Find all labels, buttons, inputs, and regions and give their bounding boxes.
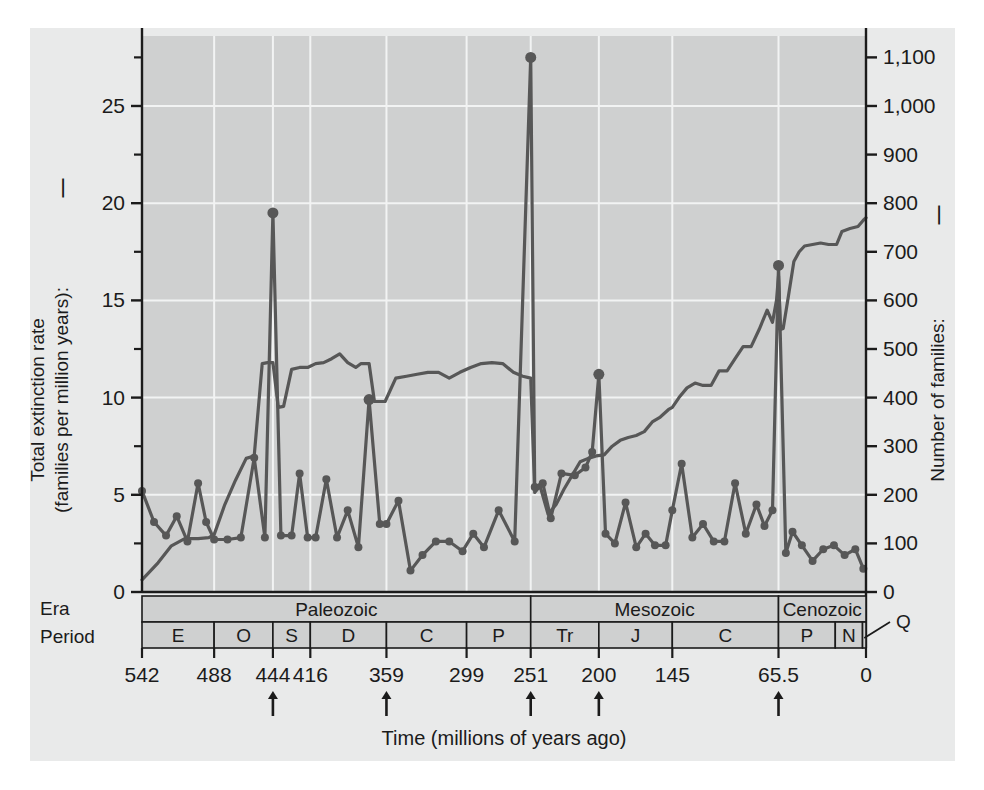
right-tick-label: 1,100 — [883, 45, 936, 68]
mass-extinction-arrow-head — [774, 691, 784, 699]
era-label: Mesozoic — [614, 599, 694, 620]
data-point — [782, 549, 790, 557]
data-point — [162, 532, 170, 540]
data-point — [480, 543, 488, 551]
data-point — [789, 528, 797, 536]
mass-extinction-arrows — [268, 691, 784, 716]
extinction-chart: 0510152025 01002003004005006007008009001… — [0, 0, 984, 790]
mass-extinction-arrow-head — [268, 691, 278, 699]
data-point — [557, 469, 565, 477]
period-label: S — [285, 625, 298, 646]
data-point — [237, 534, 245, 542]
right-axis-legend-dash: — — [927, 206, 948, 225]
period-label: Tr — [556, 625, 574, 646]
left-axis-legend-dash: — — [51, 179, 72, 198]
quaternary-callout-label: Q — [896, 611, 911, 632]
period-label: P — [492, 625, 505, 646]
right-tick-label: 1,000 — [883, 94, 936, 117]
data-point — [742, 530, 750, 538]
data-point — [760, 522, 768, 530]
data-point — [809, 557, 817, 565]
data-point — [495, 506, 503, 514]
data-point — [354, 543, 362, 551]
data-point — [459, 547, 467, 555]
data-point — [432, 537, 440, 545]
right-tick-label: 200 — [883, 483, 918, 506]
data-point — [642, 530, 650, 538]
x-tick-label: 65.5 — [758, 663, 799, 686]
right-tick-label: 800 — [883, 191, 918, 214]
data-point — [710, 537, 718, 545]
right-axis-title: Number of families: — [927, 318, 948, 482]
left-tick-label: 15 — [102, 288, 125, 311]
data-point — [223, 536, 231, 544]
data-point — [668, 506, 676, 514]
left-axis-title-line1: Total extinction rate — [27, 318, 48, 482]
period-label: E — [172, 625, 185, 646]
right-tick-label: 700 — [883, 240, 918, 263]
data-point — [830, 541, 838, 549]
era-row-label: Era — [40, 598, 70, 619]
data-point — [611, 539, 619, 547]
data-point — [202, 518, 210, 526]
x-axis-ticks: 54248844441635929925120014565.50 — [124, 648, 871, 686]
data-point — [622, 499, 630, 507]
right-tick-label: 100 — [883, 531, 918, 554]
x-tick-label: 416 — [293, 663, 328, 686]
x-axis-title: Time (millions of years ago) — [382, 727, 627, 749]
left-tick-label: 25 — [102, 94, 125, 117]
data-point — [819, 545, 827, 553]
data-point — [651, 541, 659, 549]
data-point — [662, 541, 670, 549]
x-tick-label: 299 — [449, 663, 484, 686]
data-point — [322, 475, 330, 483]
left-tick-label: 0 — [113, 580, 125, 603]
left-axis-title-line2: (families per million years): — [51, 287, 72, 513]
data-point — [720, 537, 728, 545]
mass-extinction-arrow-head — [594, 691, 604, 699]
data-point — [194, 479, 202, 487]
chart-stage: 0510152025 01002003004005006007008009001… — [0, 0, 984, 790]
mass-extinction-arrow-head — [526, 691, 536, 699]
data-point — [333, 534, 341, 542]
period-label: N — [842, 625, 856, 646]
data-point — [841, 551, 849, 559]
period-label: D — [342, 625, 356, 646]
data-point — [304, 534, 312, 542]
data-point — [173, 512, 181, 520]
x-tick-label: 145 — [655, 663, 690, 686]
right-axis-ticks: 01002003004005006007008009001,0001,100 — [866, 45, 936, 603]
period-label: J — [631, 625, 641, 646]
data-point — [296, 469, 304, 477]
data-point — [312, 534, 320, 542]
x-tick-label: 542 — [124, 663, 159, 686]
data-point — [288, 532, 296, 540]
era-label: Cenozoic — [783, 599, 862, 620]
left-tick-label: 10 — [102, 386, 125, 409]
data-point — [768, 506, 776, 514]
data-point — [688, 534, 696, 542]
right-tick-label: 400 — [883, 386, 918, 409]
data-point — [511, 537, 519, 545]
x-tick-label: 488 — [197, 663, 232, 686]
data-point — [261, 534, 269, 542]
data-point — [632, 543, 640, 551]
period-label: C — [719, 625, 733, 646]
data-point — [277, 532, 285, 540]
data-point — [851, 545, 859, 553]
mass-extinction-arrow-head — [381, 691, 391, 699]
era-label: Paleozoic — [295, 599, 377, 620]
data-point — [581, 464, 589, 472]
data-point — [593, 369, 604, 380]
right-tick-label: 300 — [883, 434, 918, 457]
data-point — [752, 501, 760, 509]
data-point — [525, 52, 536, 63]
data-point — [445, 537, 453, 545]
data-point — [602, 530, 610, 538]
x-tick-label: 200 — [581, 663, 616, 686]
data-point — [394, 497, 402, 505]
left-axis-ticks: 0510152025 — [102, 57, 142, 603]
x-tick-label: 0 — [860, 663, 872, 686]
period-label: P — [801, 625, 814, 646]
right-tick-label: 500 — [883, 337, 918, 360]
